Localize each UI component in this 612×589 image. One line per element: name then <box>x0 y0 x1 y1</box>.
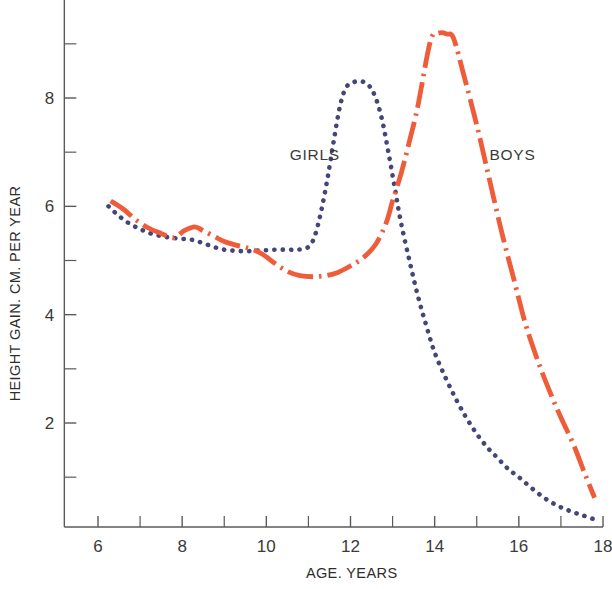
x-tick-label: 12 <box>341 537 360 556</box>
x-tick-label: 14 <box>425 537 444 556</box>
growth-velocity-chart: 2468681012141618 GIRLSBOYS AGE. YEARSHEI… <box>0 0 612 589</box>
y-axis-title: HEIGHT GAIN. CM. PER YEAR <box>7 186 23 402</box>
y-tick-label: 6 <box>45 197 54 216</box>
data-series <box>109 33 595 520</box>
x-tick-label: 10 <box>257 537 276 556</box>
series-annotations: GIRLSBOYS <box>290 146 536 163</box>
chart-container: 2468681012141618 GIRLSBOYS AGE. YEARSHEI… <box>0 0 612 589</box>
series-label-girls: GIRLS <box>290 146 340 163</box>
axes <box>64 0 603 527</box>
x-tick-label: 18 <box>594 537 612 556</box>
y-tick-label: 2 <box>45 414 54 433</box>
y-tick-label: 8 <box>45 89 54 108</box>
series-label-boys: BOYS <box>490 146 536 163</box>
x-tick-label: 6 <box>93 537 102 556</box>
x-tick-label: 8 <box>177 537 186 556</box>
series-line-boys <box>111 33 595 498</box>
x-axis-title: AGE. YEARS <box>306 565 398 581</box>
y-tick-label: 4 <box>45 306 54 325</box>
x-tick-label: 16 <box>509 537 528 556</box>
axis-titles: AGE. YEARSHEIGHT GAIN. CM. PER YEAR <box>7 186 397 581</box>
